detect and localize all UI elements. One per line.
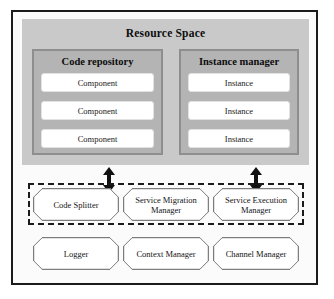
instance-manager-panel: Instance manager Instance Instance Insta…: [179, 49, 299, 155]
component-box: Component: [41, 73, 154, 92]
instance-box: Instance: [188, 73, 290, 92]
resource-space-panel: Resource Space Code repository Component…: [22, 19, 309, 165]
node-label: Service Migration Manager: [123, 195, 209, 215]
instance-manager-item-list: Instance Instance Instance: [188, 73, 290, 148]
node-code-splitter[interactable]: Code Splitter: [33, 188, 119, 221]
node-service-migration-manager[interactable]: Service Migration Manager: [123, 188, 209, 221]
code-repository-panel: Code repository Component Component Comp…: [32, 49, 163, 155]
code-repository-title: Code repository: [34, 56, 161, 67]
component-box: Component: [41, 101, 154, 120]
node-service-execution-manager[interactable]: Service Execution Manager: [213, 188, 299, 221]
code-repository-item-list: Component Component Component: [41, 73, 154, 148]
node-context-manager[interactable]: Context Manager: [123, 237, 209, 270]
grouped-service-nodes: Code Splitter Service Migration Manager …: [33, 188, 299, 221]
resource-space-title: Resource Space: [22, 27, 309, 39]
node-logger[interactable]: Logger: [33, 237, 119, 270]
instance-box: Instance: [188, 101, 290, 120]
instance-manager-title: Instance manager: [181, 56, 297, 67]
node-label: Context Manager: [130, 249, 201, 259]
node-channel-manager[interactable]: Channel Manager: [213, 237, 299, 270]
node-label: Code Splitter: [47, 200, 104, 210]
node-label: Channel Manager: [220, 249, 293, 259]
support-service-nodes: Logger Context Manager Channel Manager: [33, 237, 299, 270]
node-label: Service Execution Manager: [213, 195, 299, 215]
node-label: Logger: [58, 249, 95, 259]
architecture-diagram: Resource Space Code repository Component…: [11, 10, 318, 285]
instance-box: Instance: [188, 129, 290, 148]
component-box: Component: [41, 129, 154, 148]
